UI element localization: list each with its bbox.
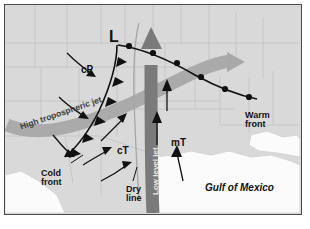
air-mass-mt-label: mT <box>171 138 186 148</box>
air-mass-ct-label: cT <box>117 146 129 156</box>
weather-map-frame: L cP cT mT Cold front Warm front Dry lin… <box>4 4 302 215</box>
air-mass-cp-label: cP <box>81 65 93 75</box>
cold-front-label: Cold front <box>41 169 62 187</box>
warm-front-label: Warm front <box>245 111 270 129</box>
low-level-jet-label: Low level jet <box>152 147 160 195</box>
gulf-of-mexico-label: Gulf of Mexico <box>205 183 274 193</box>
low-pressure-label: L <box>109 29 119 45</box>
figure-root: L cP cT mT Cold front Warm front Dry lin… <box>0 0 310 229</box>
dry-line-label: Dry line <box>126 185 142 203</box>
